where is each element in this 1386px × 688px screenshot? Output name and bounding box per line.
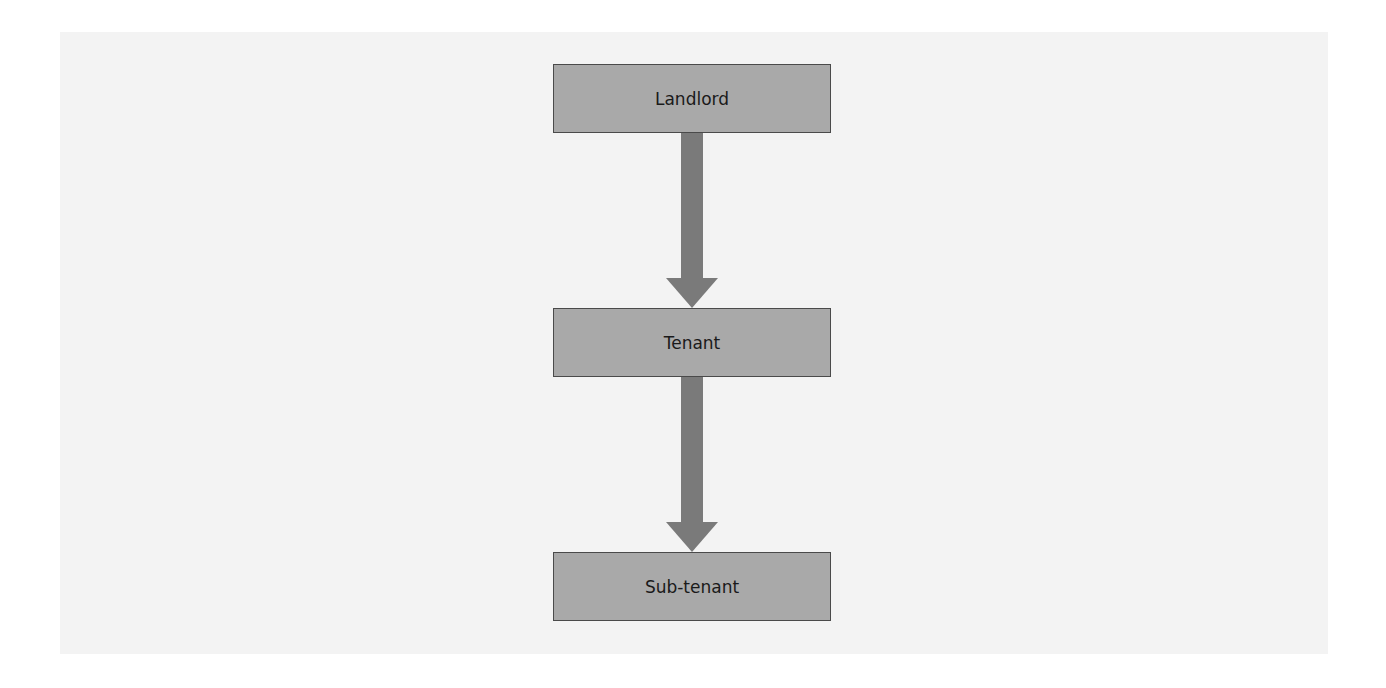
arrow-shaft-landlord-tenant bbox=[681, 133, 703, 279]
arrow-down-icon bbox=[666, 522, 718, 552]
node-subtenant: Sub-tenant bbox=[553, 552, 831, 621]
arrow-shaft-tenant-subtenant bbox=[681, 377, 703, 523]
node-tenant: Tenant bbox=[553, 308, 831, 377]
node-label: Sub-tenant bbox=[645, 577, 739, 597]
arrow-down-icon bbox=[666, 278, 718, 308]
node-landlord: Landlord bbox=[553, 64, 831, 133]
node-label: Landlord bbox=[655, 89, 729, 109]
node-label: Tenant bbox=[664, 333, 721, 353]
